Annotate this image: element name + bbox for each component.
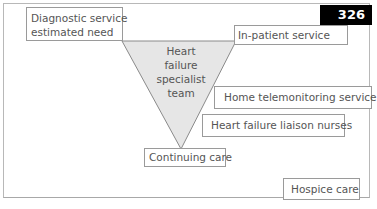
diagnostic-line-1: Diagnostic service [31, 11, 122, 25]
home-telemonitoring-label: Home telemonitoring service [224, 91, 377, 103]
inpatient-service-box: In-patient service [234, 25, 348, 45]
home-telemonitoring-box: Home telemonitoring service [214, 86, 372, 109]
liaison-nurses-label: Heart failure liaison nurses [211, 119, 352, 131]
diagnostic-service-box: Diagnostic service estimated need [26, 7, 123, 41]
triangle-label-line-2: failure [136, 58, 226, 72]
hospice-care-label: Hospice care [291, 183, 359, 195]
inpatient-label: In-patient service [238, 29, 330, 41]
triangle-label-line-3: specialist [136, 72, 226, 86]
continuing-care-label: Continuing care [149, 151, 232, 163]
triangle-label-line-1: Heart [136, 44, 226, 58]
liaison-nurses-box: Heart failure liaison nurses [202, 114, 345, 137]
diagnostic-line-2: estimated need [31, 25, 122, 39]
hospice-care-box: Hospice care [283, 178, 360, 200]
triangle-label-line-4: team [136, 86, 226, 100]
continuing-care-box: Continuing care [144, 148, 226, 167]
triangle-label: Heart failure specialist team [136, 44, 226, 100]
